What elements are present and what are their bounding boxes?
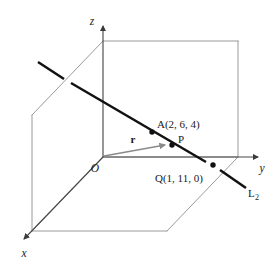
line-l2-segment-lower (220, 170, 246, 188)
line-l2-label-subscript: 2 (255, 193, 259, 202)
vector-r-shaft (104, 145, 165, 156)
line-l2-label: L (248, 187, 255, 199)
origin-label: O (91, 162, 100, 174)
coordinate-axes (24, 26, 258, 239)
line-l2-stroke (38, 62, 246, 188)
point-q-dot (210, 162, 215, 167)
point-a-dot (149, 129, 154, 134)
point-p-dot (169, 142, 174, 147)
geometry-figure: z y x O r A(2, 6, 4) P Q(1, 11, 0) L 2 (0, 0, 279, 271)
x-axis-label: x (20, 247, 27, 259)
z-axis-label: z (89, 15, 95, 27)
point-p-label: P (178, 133, 184, 145)
vector-r-label: r (131, 133, 136, 145)
point-a-label: A(2, 6, 4) (157, 118, 200, 131)
vector-r-arrow (104, 145, 165, 156)
y-axis-label: y (258, 162, 265, 175)
line-l2-label-group: L 2 (248, 187, 259, 202)
point-q-label: Q(1, 11, 0) (155, 172, 203, 185)
diagram-canvas: z y x O r A(2, 6, 4) P Q(1, 11, 0) L 2 (0, 0, 279, 271)
box-bottom-right-receding-edge (167, 157, 238, 231)
line-l2-segment-upper (38, 62, 64, 79)
box-top-left-receding-edge (32, 41, 103, 115)
